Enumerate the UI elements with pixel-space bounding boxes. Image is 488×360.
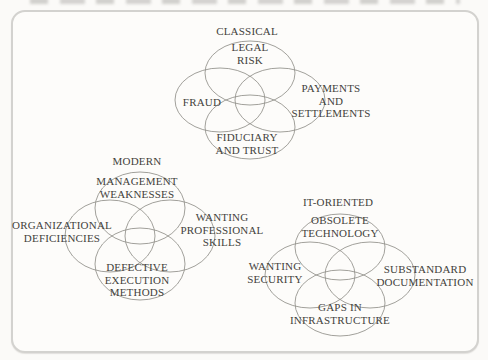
it-oriented-left-circle-label: WANTING SECURITY bbox=[247, 260, 302, 285]
classical-cluster-title: CLASSICAL bbox=[216, 25, 278, 38]
it-oriented-top-circle-label: OBSOLETE TECHNOLOGY bbox=[301, 214, 378, 239]
it-oriented-cluster-title: IT-ORIENTED bbox=[303, 196, 373, 209]
modern-bottom-circle-label: DEFECTIVE EXECUTION METHODS bbox=[105, 261, 170, 299]
it-oriented-bottom-circle-label: GAPS IN INFRASTRUCTURE bbox=[290, 301, 390, 326]
modern-cluster-title: MODERN bbox=[113, 155, 162, 168]
classical-left-circle-label: FRAUD bbox=[183, 96, 221, 109]
it-oriented-right-circle-label: SUBSTANDARD DOCUMENTATION bbox=[376, 263, 473, 288]
modern-right-circle-label: WANTING PROFESSIONAL SKILLS bbox=[180, 211, 263, 249]
classical-bottom-circle-label: FIDUCIARY AND TRUST bbox=[215, 131, 278, 156]
figure-scan: CLASSICAL LEGAL RISK FRAUD PAYMENTS AND … bbox=[0, 0, 488, 360]
modern-top-circle-label: MANAGEMENT WEAKNESSES bbox=[96, 175, 177, 200]
classical-top-circle-label: LEGAL RISK bbox=[231, 41, 268, 66]
modern-left-circle-label: ORGANIZATIONAL DEFICIENCIES bbox=[12, 219, 112, 244]
classical-right-circle-label: PAYMENTS AND SETTLEMENTS bbox=[291, 82, 370, 120]
